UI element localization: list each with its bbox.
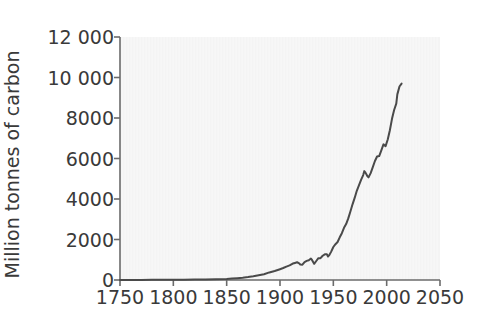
plot-area-wrapper: [0, 0, 486, 329]
x-axis-tick-label: 2050: [416, 286, 464, 308]
carbon-emissions-chart: Million tonnes of carbon 020004000600080…: [0, 0, 486, 329]
y-axis-ticks: [114, 37, 120, 280]
plot-svg: [0, 0, 486, 329]
x-axis-tick-label: 1950: [309, 286, 357, 308]
x-axis-tick-label: 1900: [256, 286, 304, 308]
x-axis-tick-label: 1750: [96, 286, 144, 308]
x-axis-tick-label: 1800: [149, 286, 197, 308]
x-axis-tick-label: 2000: [362, 286, 410, 308]
x-axis-tick-label: 1850: [202, 286, 250, 308]
